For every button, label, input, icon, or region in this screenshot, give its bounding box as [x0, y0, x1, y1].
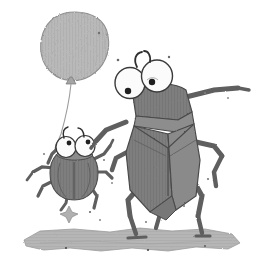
small-beetle-pupil-left	[67, 141, 72, 146]
large-beetle-eye-left	[115, 68, 145, 99]
large-beetle-eye-right	[142, 60, 173, 92]
ground	[24, 228, 240, 251]
illustration-canvas: Hand-drawn grayscale illustration: a lar…	[0, 0, 261, 261]
small-beetle-pupil-right	[86, 140, 91, 145]
beetles-illustration	[0, 0, 261, 261]
large-beetle-pupil-left	[125, 88, 131, 94]
large-beetle-pupil-right	[149, 79, 155, 85]
